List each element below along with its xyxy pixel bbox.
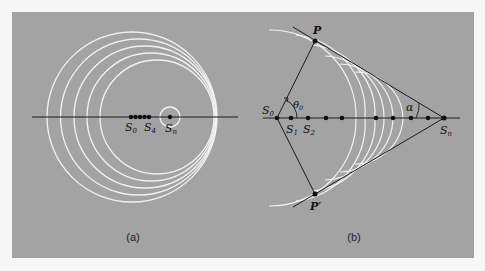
alpha-angle-arc [416, 103, 419, 118]
label-p-prime: P′ [309, 200, 321, 213]
label-s1: S1 [286, 123, 298, 137]
label-s0: S0 [125, 121, 138, 135]
source-dot-current [168, 115, 172, 119]
point-p-prime [313, 192, 318, 197]
source-dot [426, 116, 431, 121]
source-dot-current [442, 116, 447, 121]
label-alpha: α [406, 101, 414, 114]
label-theta0: θ0 [293, 99, 303, 112]
source-dot [340, 116, 345, 121]
caption-b: (b) [347, 231, 360, 243]
source-dot [147, 115, 151, 119]
source-dot [324, 116, 329, 121]
source-dot [289, 116, 294, 121]
label-sn: Sn [165, 122, 178, 136]
label-s2: S2 [303, 123, 316, 137]
panel-b: P P′ S0 S1 S2 Sn θ0 α (b) [262, 24, 460, 243]
source-dot [391, 116, 396, 121]
source-dot [133, 115, 137, 119]
source-dot [374, 116, 379, 121]
doppler-diagram: S0 S4 Sn (a) [0, 0, 485, 271]
label-p: P [312, 24, 322, 37]
source-dot [138, 115, 142, 119]
label-s0: S0 [262, 104, 275, 118]
source-dot [142, 115, 146, 119]
source-dot [409, 116, 414, 121]
label-sn: Sn [440, 124, 453, 138]
source-dot [275, 116, 280, 121]
source-dot [129, 115, 133, 119]
label-s4: S4 [144, 121, 156, 135]
caption-a: (a) [126, 231, 139, 243]
panel-a: S0 S4 Sn (a) [32, 32, 238, 243]
point-p [313, 39, 318, 44]
source-dot [306, 116, 311, 121]
